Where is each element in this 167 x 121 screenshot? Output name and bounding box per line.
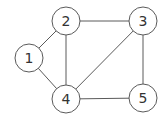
nodes-group: 12345 xyxy=(15,7,157,113)
node-label: 2 xyxy=(62,13,71,29)
node-5: 5 xyxy=(129,84,157,112)
edges-group xyxy=(29,21,143,99)
node-4: 4 xyxy=(52,85,80,113)
graph-diagram: 12345 xyxy=(0,0,167,121)
node-label: 3 xyxy=(139,13,148,29)
node-label: 4 xyxy=(62,91,71,107)
node-1: 1 xyxy=(15,44,43,72)
node-2: 2 xyxy=(52,7,80,35)
edge-3-4 xyxy=(66,21,143,99)
node-label: 1 xyxy=(25,50,34,66)
node-label: 5 xyxy=(139,90,148,106)
node-3: 3 xyxy=(129,7,157,35)
